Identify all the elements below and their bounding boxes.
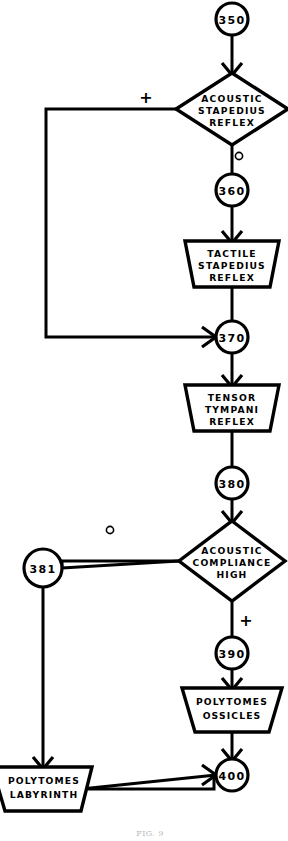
- flowchart-canvas: ACOUSTIC STAPEDIUS REFLEX TACTILE STAPED…: [0, 0, 288, 841]
- process-polytomes-ossicles[interactable]: POLYTOMES OSSICLES: [182, 688, 282, 732]
- branch-mark-plus-acoustic-compliance: +: [239, 611, 252, 630]
- node-390[interactable]: 390: [216, 637, 248, 669]
- node-350-label: 350: [219, 14, 246, 27]
- process-tensor-tympani-line-2: TYMPANI: [205, 404, 259, 415]
- decision-acoustic-stapedius-line-2: STAPEDIUS: [198, 105, 266, 116]
- node-370-label: 370: [219, 332, 246, 345]
- process-polytomes-labyrinth-line-1: POLYTOMES: [8, 775, 80, 786]
- node-381[interactable]: 381: [24, 549, 62, 587]
- decision-acoustic-stapedius-reflex[interactable]: ACOUSTIC STAPEDIUS REFLEX: [176, 73, 288, 145]
- node-381-label: 381: [30, 563, 57, 576]
- node-400-label: 400: [219, 770, 246, 783]
- process-polytomes-ossicles-line-1: POLYTOMES: [196, 696, 268, 707]
- process-tactile-stapedius-line-3: REFLEX: [209, 272, 255, 283]
- process-tensor-tympani-reflex[interactable]: TENSOR TYMPANI REFLEX: [185, 385, 279, 431]
- node-360[interactable]: 360: [216, 174, 248, 206]
- branch-mark-plus-acoustic-stapedius: +: [139, 88, 152, 107]
- process-polytomes-ossicles-line-2: OSSICLES: [203, 710, 262, 721]
- process-tactile-stapedius-line-2: STAPEDIUS: [198, 260, 266, 271]
- flowchart-diagram: ACOUSTIC STAPEDIUS REFLEX TACTILE STAPED…: [0, 0, 288, 841]
- process-polytomes-labyrinth[interactable]: POLYTOMES LABYRINTH: [0, 767, 92, 811]
- process-tactile-stapedius-line-1: TACTILE: [207, 248, 256, 259]
- decision-acoustic-compliance-high[interactable]: ACOUSTIC COMPLIANCE HIGH: [179, 521, 285, 601]
- node-390-label: 390: [219, 648, 246, 661]
- edge-polytomes-labyrinth-to-400-stub: [81, 775, 216, 789]
- process-tactile-stapedius-reflex[interactable]: TACTILE STAPEDIUS REFLEX: [185, 241, 279, 287]
- branch-mark-circle-acoustic-compliance: [106, 526, 113, 533]
- node-370[interactable]: 370: [216, 321, 248, 353]
- decision-acoustic-compliance-line-1: ACOUSTIC: [201, 545, 262, 556]
- node-380[interactable]: 380: [216, 467, 248, 499]
- node-360-label: 360: [219, 185, 246, 198]
- decision-acoustic-compliance-line-3: HIGH: [217, 569, 248, 580]
- decision-acoustic-compliance-line-2: COMPLIANCE: [192, 557, 271, 568]
- process-tensor-tympani-line-3: REFLEX: [209, 416, 255, 427]
- node-350[interactable]: 350: [216, 3, 248, 35]
- process-polytomes-labyrinth-line-2: LABYRINTH: [10, 789, 79, 800]
- branch-mark-circle-acoustic-stapedius: [235, 152, 242, 159]
- node-380-label: 380: [219, 478, 246, 491]
- node-400[interactable]: 400: [216, 759, 248, 791]
- figure-caption: FIG. 9: [136, 829, 163, 838]
- process-tensor-tympani-line-1: TENSOR: [208, 392, 257, 403]
- decision-acoustic-stapedius-line-3: REFLEX: [209, 117, 255, 128]
- edge-acoustic-stapedius-yes-loop-to-370: [46, 109, 214, 337]
- decision-acoustic-stapedius-line-1: ACOUSTIC: [201, 93, 262, 104]
